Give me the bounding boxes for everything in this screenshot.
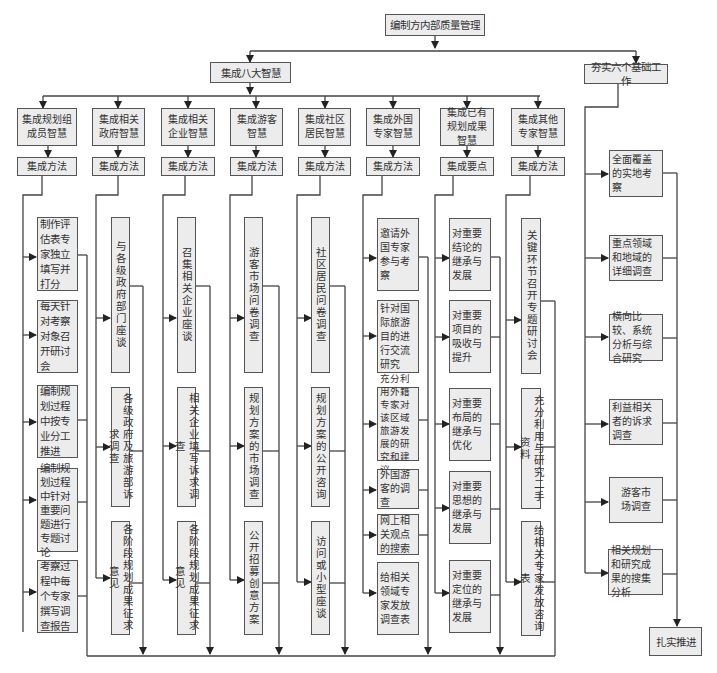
wisdom-node-2: 集成相关政府智慧 [92, 108, 145, 146]
col5-item: 社区居民问卷调查 [311, 217, 330, 373]
branch-integrate-wisdom: 集成八大智慧 [210, 62, 291, 83]
item-label: 给相关领域专家发放调查表 [380, 571, 416, 627]
item-label: 充分利用与研究二手资料 [517, 391, 545, 506]
item-label: 重点领域和地域的详细调查 [612, 237, 660, 279]
col7-item: 对重要结论的继承与发展 [449, 218, 491, 291]
wisdom-node-4: 集成游客智慧 [230, 108, 283, 146]
method-node-6: 集成方法 [366, 157, 420, 176]
item-label: 全面覆盖的实地考察 [612, 153, 660, 195]
foundation-item: 相关规划和研究成果的搜集分析 [608, 549, 663, 595]
foundation-item: 重点领域和地域的详细调查 [609, 235, 663, 281]
item-label: 各阶段规划成果征求意见 [107, 524, 135, 632]
col7-item: 对重要布局的继承与优化 [449, 388, 491, 461]
col5-item: 规划方案的公开咨询 [311, 387, 330, 507]
col6-item: 给相关领域专家发放调查表 [377, 562, 419, 635]
item-label: 给相关专家发放咨询表 [517, 524, 545, 633]
root-label: 编制方内部质量管理 [390, 18, 480, 32]
method-node-7: 集成要点 [440, 157, 494, 176]
item-label: 网上相关观点的搜索 [380, 514, 416, 556]
item-label: 召集相关企业座谈 [180, 247, 194, 343]
col6-item: 外国游客的调查 [377, 469, 419, 509]
method-label: 集成方法 [237, 160, 277, 174]
wisdom-node-1: 集成规划组成员智慧 [17, 108, 77, 146]
item-label: 针对国际旅游目的进行交流研究 [380, 302, 416, 372]
item-label: 编制规划过程中按专业分工推进 [40, 384, 75, 459]
col3-item: 相关企业填写诉求调查 [177, 387, 196, 507]
wisdom-node-3: 集成相关企业智慧 [161, 108, 215, 146]
item-label: 外国游客的调查 [380, 468, 416, 510]
wisdom-node-7: 集成已有规划成果智慧 [440, 108, 494, 146]
wisdom-label: 集成外国专家智慧 [369, 113, 417, 141]
item-label: 游客市场问卷调查 [247, 247, 261, 343]
method-label: 集成要点 [447, 160, 487, 174]
item-label: 对重要定位的继承与发展 [452, 569, 488, 625]
item-label: 公开招募创意方案 [247, 530, 261, 626]
item-label: 社区居民问卷调查 [314, 247, 328, 343]
item-label: 对重要思想的继承与发展 [452, 480, 488, 536]
col4-item: 游客市场问卷调查 [244, 217, 263, 373]
col8-item: 给相关专家发放咨询表 [521, 521, 541, 636]
col1-item: 编制规划过程中针对重要问题进行专题讨论 [37, 468, 78, 552]
item-label: 规划方案的公开咨询 [314, 393, 328, 501]
branch-label: 集成八大智慧 [221, 66, 281, 80]
foundation-item: 游客市场调查 [609, 477, 663, 523]
item-label: 各级政府及旅游部诉求调查 [107, 390, 135, 504]
wisdom-label: 集成其他专家智慧 [514, 113, 562, 141]
item-label: 游客市场调查 [620, 486, 652, 514]
col6-item: 充分利用外籍专家对该区域旅游发展的研究和建议 [377, 387, 419, 461]
result-label: 扎实推进 [656, 635, 696, 649]
item-label: 每天针对考察对象召开研讨会 [40, 299, 75, 374]
foundation-item: 横向比较、系统分析与综合研究 [609, 314, 663, 361]
item-label: 相关企业填写诉求调查 [173, 390, 201, 504]
method-label: 集成方法 [27, 160, 67, 174]
col1-item: 编制规划过程中按专业分工推进 [37, 385, 78, 458]
foundation-item: 全面覆盖的实地考察 [609, 150, 663, 197]
method-label: 集成方法 [518, 160, 558, 174]
branch-label: 夯实六个基础工作 [587, 60, 665, 88]
col2-item: 各阶段规划成果征求意见 [111, 521, 130, 635]
item-label: 相关规划和研究成果的搜集分析 [611, 544, 660, 600]
item-label: 利益相关者的诉求调查 [612, 401, 660, 443]
method-node-1: 集成方法 [17, 157, 77, 176]
col7-item: 对重要项目的吸收与提升 [449, 300, 491, 373]
method-label: 集成方法 [99, 160, 139, 174]
method-node-4: 集成方法 [230, 157, 283, 176]
col3-item: 召集相关企业座谈 [177, 217, 196, 373]
wisdom-node-8: 集成其他专家智慧 [511, 108, 565, 146]
item-label: 充分利用外籍专家对该区域旅游发展的研究和建议 [380, 372, 416, 476]
method-node-8: 集成方法 [511, 157, 565, 176]
method-label: 集成方法 [305, 160, 345, 174]
col7-item: 对重要思想的继承与发展 [449, 471, 491, 544]
item-label: 考察过程中每个专家撰写调查报告 [40, 559, 75, 634]
col1-item: 每天针对考察对象召开研讨会 [37, 300, 78, 373]
col4-item: 公开招募创意方案 [244, 521, 263, 635]
method-node-3: 集成方法 [161, 157, 215, 176]
col1-item: 考察过程中每个专家撰写调查报告 [37, 560, 78, 633]
col2-item: 各级政府及旅游部诉求调查 [111, 387, 130, 507]
wisdom-node-5: 集成社区居民智慧 [298, 108, 351, 146]
col6-item: 针对国际旅游目的进行交流研究 [377, 300, 419, 373]
col7-item: 对重要定位的继承与发展 [449, 560, 491, 633]
item-label: 各阶段规划成果征求意见 [173, 524, 201, 632]
foundation-item: 利益相关者的诉求调查 [609, 399, 663, 445]
wisdom-label: 集成游客智慧 [233, 113, 280, 141]
method-label: 集成方法 [168, 160, 208, 174]
col4-item: 规划方案的市场调查 [244, 387, 263, 507]
method-label: 集成方法 [373, 160, 413, 174]
col8-item: 充分利用与研究二手资料 [521, 388, 541, 509]
item-label: 对重要项目的吸收与提升 [452, 309, 488, 365]
col5-item: 访问或小型座谈 [311, 521, 330, 635]
item-label: 与各级政府部门座谈 [114, 241, 128, 349]
col3-item: 各阶段规划成果征求意见 [177, 521, 196, 635]
item-label: 关键环节召开专题研讨会 [524, 230, 538, 362]
item-label: 对重要布局的继承与优化 [452, 397, 488, 453]
root-node: 编制方内部质量管理 [385, 14, 485, 36]
col6-item: 邀请外国专家参与考察 [377, 218, 419, 291]
col1-item: 制作评估表专家独立填写并打分 [37, 217, 78, 291]
method-node-5: 集成方法 [298, 157, 351, 176]
item-label: 规划方案的市场调查 [247, 393, 261, 501]
wisdom-label: 集成相关企业智慧 [164, 113, 212, 141]
item-label: 对重要结论的继承与发展 [452, 227, 488, 283]
wisdom-label: 集成相关政府智慧 [95, 113, 142, 141]
wisdom-label: 集成社区居民智慧 [301, 113, 348, 141]
